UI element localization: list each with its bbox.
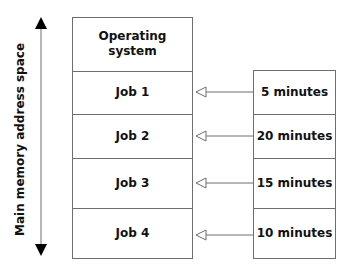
arrow-job4 <box>196 230 253 240</box>
job-cell: Job 2 <box>72 114 193 158</box>
arrow-job3 <box>196 178 253 188</box>
os-label-line2: system <box>108 44 157 59</box>
job-cell: Job 1 <box>72 71 193 114</box>
job-cell: Job 4 <box>72 208 193 259</box>
job-label: Job 2 <box>116 129 150 144</box>
time-label: 15 minutes <box>257 176 333 191</box>
time-label: 10 minutes <box>257 226 333 241</box>
time-cell: 5 minutes <box>253 70 336 114</box>
job-label: Job 1 <box>116 85 150 100</box>
arrow-up-icon <box>35 17 47 29</box>
time-cell: 10 minutes <box>253 208 336 259</box>
axis-label: Main memory address space <box>13 56 29 236</box>
os-label-line1: Operating <box>99 29 167 44</box>
time-cell: 20 minutes <box>253 114 336 158</box>
arrow-down-icon <box>35 244 47 256</box>
job-label: Job 4 <box>116 226 150 241</box>
arrow-job1 <box>196 87 253 97</box>
arrow-job2 <box>196 131 253 141</box>
os-cell: Operating system <box>72 17 193 71</box>
job-label: Job 3 <box>116 176 150 191</box>
time-label: 20 minutes <box>257 129 333 144</box>
time-label: 5 minutes <box>261 85 328 100</box>
time-cell: 15 minutes <box>253 158 336 208</box>
job-cell: Job 3 <box>72 158 193 208</box>
